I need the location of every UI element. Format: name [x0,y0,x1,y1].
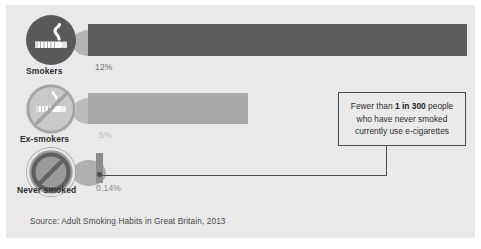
category-label-smokers: Smokers [26,66,63,76]
source-note: Source: Adult Smoking Habits in Great Br… [30,216,226,226]
bar-smokers [88,24,467,56]
icon-badge-ex-smokers [26,84,76,134]
callout-leader-vertical [386,146,388,175]
callout-line-1: Fewer than 1 in 300 people [351,100,453,113]
value-label-never-smoked: 0.14% [96,183,121,193]
callout-line-1-suffix: people [426,101,453,111]
category-label-ex-smokers: Ex-smokers [20,134,69,144]
category-label-never-smoked: Never smoked [17,185,76,195]
callout-leader-anchor-dot [97,172,102,177]
callout-line-3: currently use e-cigarettes [355,125,449,138]
bar-ex-smokers [88,93,248,124]
callout-line-1-prefix: Fewer than [351,101,395,111]
no-smoking-icon [26,84,76,134]
cigarette-icon [26,15,76,65]
icon-badge-smokers [26,15,76,65]
value-label-ex-smokers: 5% [99,130,112,140]
bar-never-smoked [96,153,103,183]
value-label-smokers: 12% [95,62,113,72]
callout-line-2: who have never smoked [357,113,448,126]
callout-leader-horizontal [99,175,387,177]
callout-line-1-strong: 1 in 300 [395,101,426,111]
callout-box: Fewer than 1 in 300 people who have neve… [338,92,466,146]
infographic-root: Smokers 12% Ex-smokers 5% [0,0,481,249]
